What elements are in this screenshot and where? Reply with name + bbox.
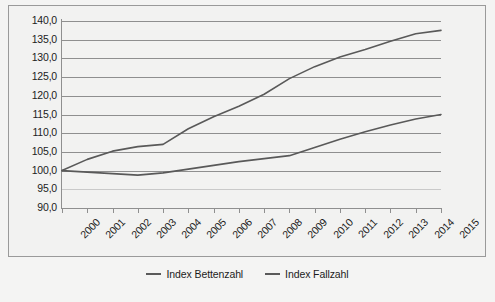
gridline-95 [62,189,441,190]
legend-swatch-fallzahl [265,273,280,275]
x-tick-2013 [390,208,391,213]
gridline-100 [62,171,441,172]
y-axis-line [61,19,62,209]
x-tick-2009 [289,208,290,213]
gridline-120 [62,96,441,97]
x-tick-2004 [163,208,164,213]
x-tick-2001 [87,208,88,213]
legend-item-fallzahl: Index Fallzahl [265,268,348,280]
x-tick-2012 [365,208,366,213]
legend-item-bettenzahl: Index Bettenzahl [146,268,243,280]
gridline-105 [62,152,441,153]
legend-label-bettenzahl: Index Bettenzahl [166,268,243,280]
gridline-125 [62,77,441,78]
x-tick-2002 [113,208,114,213]
gridline-135 [62,40,441,41]
x-tick-2015 [441,208,442,213]
gridline-130 [62,58,441,59]
y-tick-label-105: 105,0 [32,145,57,157]
gridline-115 [62,115,441,116]
y-tick-label-110: 110,0 [33,126,58,138]
y-tick-label-100: 100,0 [32,164,57,176]
legend-swatch-bettenzahl [146,273,161,275]
y-tick-label-125: 125,0 [32,70,57,82]
x-tick-2008 [264,208,265,213]
y-tick-label-120: 120,0 [32,89,57,101]
y-tick-label-130: 130,0 [32,51,57,63]
chart-legend: Index Bettenzahl Index Fallzahl [0,268,495,280]
y-tick-label-140: 140,0 [32,14,57,26]
y-tick-label-95: 95,0 [37,182,57,194]
x-tick-2010 [315,208,316,213]
gridline-110 [62,133,441,134]
gridline-140 [62,21,441,22]
x-tick-2005 [188,208,189,213]
plot-area [62,21,441,207]
legend-label-fallzahl: Index Fallzahl [285,268,348,280]
x-tick-2006 [214,208,215,213]
x-tick-2003 [138,208,139,213]
x-tick-2014 [416,208,417,213]
y-tick-label-115: 115,0 [33,108,58,120]
x-tick-2007 [239,208,240,213]
y-tick-label-135: 135,0 [32,33,57,45]
chart-figure: 90,095,0100,0105,0110,0115,0120,0125,013… [0,0,495,302]
y-tick-label-90: 90,0 [37,201,57,213]
x-tick-2011 [340,208,341,213]
x-tick-2000 [62,208,63,213]
x-axis-line [61,208,442,209]
y-axis-labels: 90,095,0100,0105,0110,0115,0120,0125,013… [0,0,57,302]
